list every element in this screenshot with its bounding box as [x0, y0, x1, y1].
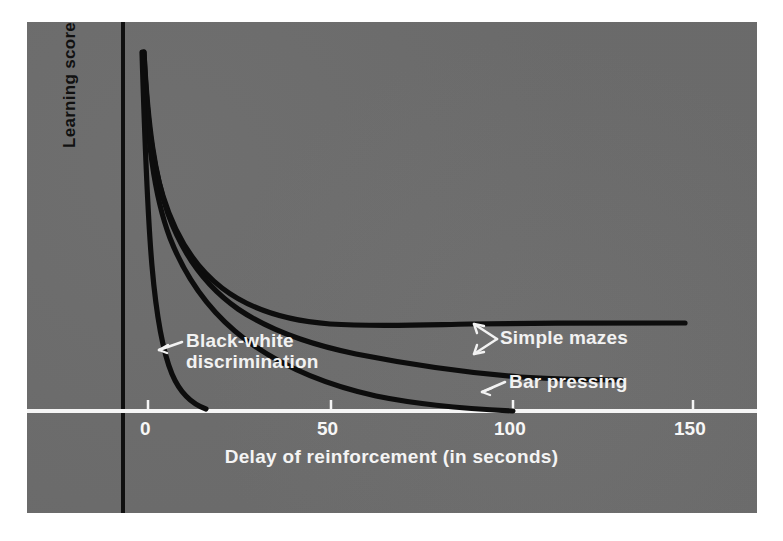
annotation-bw-line2: discrimination: [186, 351, 319, 372]
x-tick-label-100: 100: [494, 418, 526, 440]
annotation-black-white-discrimination: Black-white discrimination: [186, 330, 319, 373]
annotation-simple-mazes: Simple mazes: [500, 327, 628, 348]
figure-root: Learning score 0 50 100 150 Delay of rei…: [0, 0, 783, 541]
x-tick-label-0: 0: [140, 418, 151, 440]
annotation-bw-line1: Black-white: [186, 330, 319, 351]
curve-simple-mazes: [144, 52, 685, 326]
arrow-bar-pressing: [482, 382, 505, 395]
annotation-bar-pressing: Bar pressing: [509, 371, 628, 392]
x-tick-label-150: 150: [674, 418, 706, 440]
y-axis-title: Learning score: [60, 22, 80, 148]
arrow-simple-mazes: [474, 324, 497, 354]
x-tick-label-50: 50: [317, 418, 338, 440]
x-axis-title: Delay of reinforcement (in seconds): [0, 446, 783, 468]
